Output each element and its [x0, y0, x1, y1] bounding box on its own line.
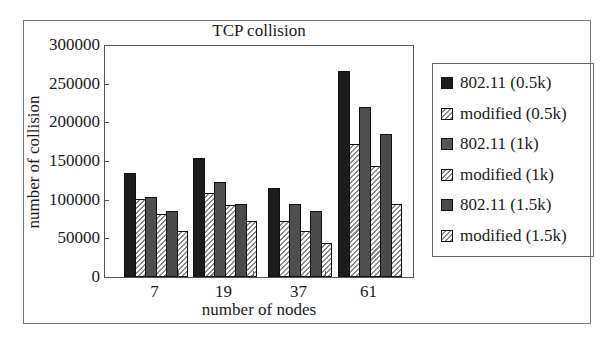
x-axis-label: number of nodes [104, 300, 414, 320]
legend-label: 802.11 (1.5k) [460, 195, 551, 215]
legend-label: modified (0.5k) [460, 104, 567, 124]
y-tick-label: 50000 [58, 229, 101, 246]
bar [246, 221, 258, 277]
legend-swatch-icon [441, 230, 453, 242]
legend-swatch-icon [441, 199, 453, 211]
legend-label: 802.11 (1k) [460, 134, 539, 154]
bar [391, 204, 403, 277]
legend-swatch-icon [441, 77, 453, 89]
x-group-separator-tick [325, 271, 326, 277]
y-tick-label: 250000 [49, 75, 100, 92]
x-group-separator-tick [178, 271, 179, 277]
y-tick-label: 100000 [49, 191, 100, 208]
legend-label: 802.11 (0.5k) [460, 73, 551, 93]
bar [321, 243, 333, 277]
x-tick-label: 61 [360, 282, 377, 302]
legend-item: modified (0.5k) [441, 103, 567, 125]
legend-item: modified (1k) [441, 164, 554, 186]
legend-label: modified (1.5k) [460, 226, 567, 246]
legend-item: modified (1.5k) [441, 225, 567, 247]
y-tick-label: 150000 [49, 152, 100, 169]
legend-swatch-icon [441, 169, 453, 181]
x-tick-label: 37 [290, 282, 307, 302]
plot-area [104, 45, 414, 278]
legend-swatch-icon [441, 138, 453, 150]
legend-item: 802.11 (0.5k) [441, 72, 551, 94]
x-tick-label: 19 [215, 282, 232, 302]
x-tick-label: 7 [150, 282, 159, 302]
legend-swatch-icon [441, 108, 453, 120]
y-tick-label: 300000 [49, 36, 100, 53]
y-tick-label: 0 [92, 268, 101, 285]
legend-label: modified (1k) [460, 165, 554, 185]
legend-item: 802.11 (1k) [441, 133, 539, 155]
chart-title: TCP collision [104, 21, 414, 41]
legend-item: 802.11 (1.5k) [441, 194, 551, 216]
y-axis-label: number of collision [24, 95, 44, 228]
legend: 802.11 (0.5k)modified (0.5k)802.11 (1k)m… [432, 63, 594, 257]
y-tick-label: 200000 [49, 113, 100, 130]
x-group-separator-tick [253, 271, 254, 277]
